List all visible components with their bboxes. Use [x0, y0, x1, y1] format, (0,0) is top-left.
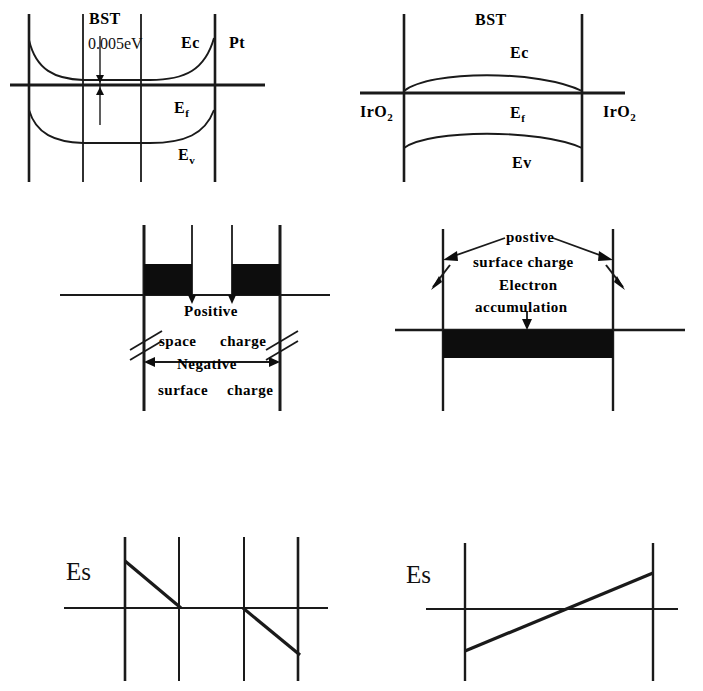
field-segment-left-descending [125, 561, 181, 608]
valence-band-main: E [178, 146, 189, 163]
electrode-right-subscript: 2 [630, 111, 636, 123]
valence-band-curve [404, 134, 582, 148]
panel-middle-right-charge-distribution: postive surface charge Electron accumula… [395, 215, 703, 415]
label-electrode-pt: Pt [229, 34, 245, 51]
label-space: space [159, 333, 197, 349]
field-segment-ascending [465, 573, 653, 651]
surface-charge-tick-right [606, 265, 625, 290]
label-valence-band-ev: Ev [512, 154, 532, 171]
valence-band-subscript: v [189, 154, 195, 166]
break-mark-left [130, 331, 162, 360]
electrode-right-main: IrO [603, 103, 630, 120]
label-fermi-level: Ef [174, 99, 189, 119]
label-electrode-right-iro2: IrO2 [603, 103, 636, 123]
electron-accumulation-block [443, 330, 613, 358]
label-surface: surface [158, 382, 208, 398]
label-charge-upper: charge [220, 333, 266, 349]
panel-middle-left-charge-distribution: Positive space charge Negative surface c… [40, 215, 360, 415]
conduction-band-curve [404, 75, 582, 91]
label-electrode-left-iro2: IrO2 [360, 103, 393, 123]
surface-charge-tick-left [431, 265, 450, 290]
fermi-level-main: E [510, 104, 521, 121]
electrode-left-main: IrO [360, 103, 387, 120]
label-charge-lower: charge [227, 382, 273, 398]
fermi-level-main: E [174, 99, 185, 116]
break-mark-right [266, 331, 298, 360]
label-field-es: Es [406, 561, 431, 588]
label-energy-gap: 0.005eV [88, 35, 143, 52]
negative-surface-charge-block-left [144, 264, 192, 295]
label-positive: Positive [184, 303, 238, 319]
panel-top-right-band-diagram: BST Ec Ef Ev IrO2 IrO2 [360, 0, 703, 190]
label-accumulation: accumulation [475, 299, 568, 315]
label-surface-charge: surface charge [473, 254, 574, 270]
label-fermi-level: Ef [510, 104, 525, 124]
electrode-left-subscript: 2 [387, 111, 393, 123]
panel-bottom-right-field-profile: Es [400, 525, 700, 691]
label-conduction-band-ec: Ec [510, 44, 529, 61]
gap-marker-lower-arrow [96, 87, 104, 95]
panel-top-left-band-diagram: BST 0.005eV Ec Pt Ef Ev [0, 0, 300, 190]
label-material-bst: BST [475, 11, 507, 28]
label-electron: Electron [499, 277, 558, 293]
label-conduction-band-ec: Ec [181, 34, 200, 51]
label-valence-band: Ev [178, 146, 195, 166]
fermi-level-subscript: f [185, 107, 189, 119]
negative-surface-charge-block-right [232, 264, 280, 295]
fermi-level-subscript: f [521, 112, 525, 124]
panel-bottom-left-field-profile: Es [60, 525, 360, 691]
field-segment-right-descending [243, 608, 300, 655]
gap-marker-upper-arrow [96, 75, 104, 83]
label-field-es: Es [66, 558, 91, 585]
label-material-bst: BST [89, 10, 121, 27]
figure-root: BST 0.005eV Ec Pt Ef Ev BST Ec Ef Ev IrO… [0, 0, 703, 691]
label-postive: postive [506, 229, 555, 245]
label-negative: Negative [177, 356, 237, 372]
